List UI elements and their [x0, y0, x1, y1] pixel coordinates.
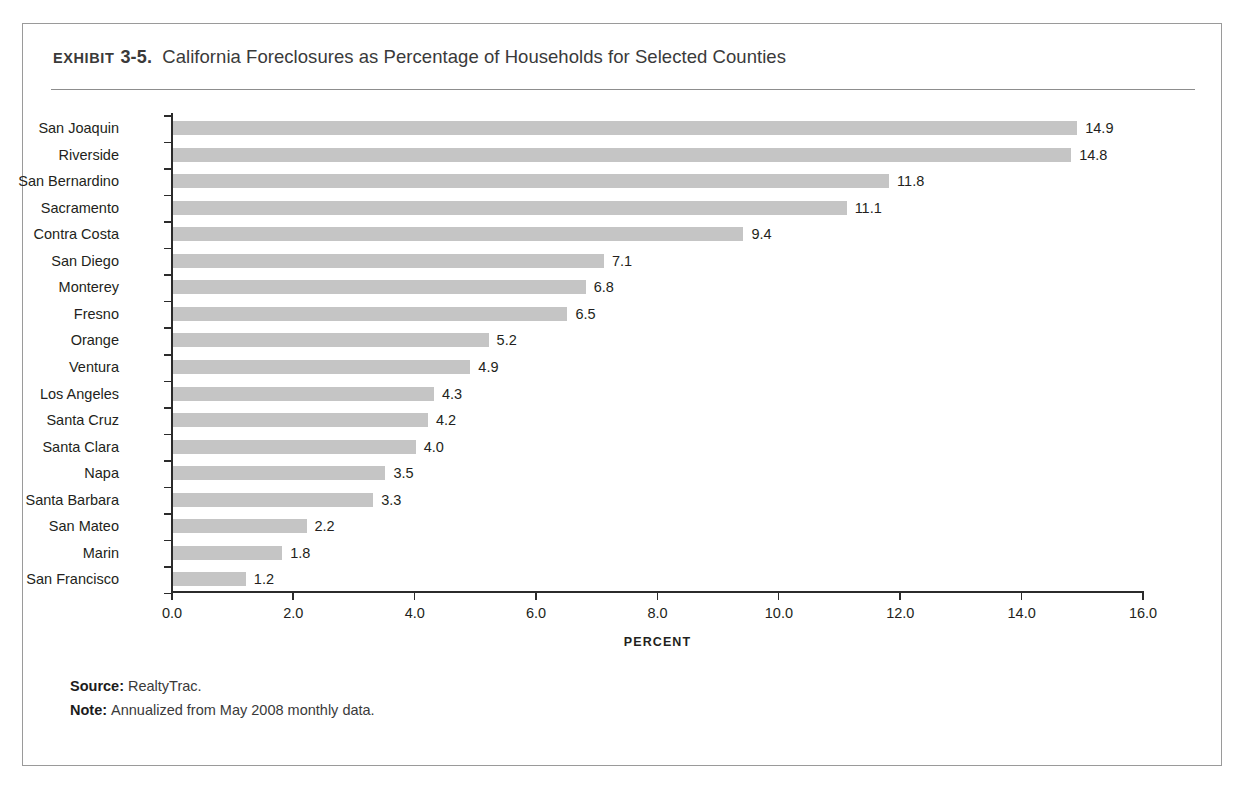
x-axis-tick [657, 593, 659, 600]
bar-row: San Diego7.1 [23, 248, 1183, 275]
y-axis-tick [164, 513, 172, 515]
y-axis-tick [164, 168, 172, 170]
bar-value-label: 5.2 [497, 327, 517, 354]
bar-row: Orange5.2 [23, 327, 1183, 354]
bar-value-label: 9.4 [751, 221, 771, 248]
bar [173, 174, 889, 188]
category-label: San Mateo [0, 513, 119, 540]
category-label: Orange [0, 327, 119, 354]
x-axis-tick [1142, 593, 1144, 600]
category-label: San Francisco [0, 566, 119, 593]
x-axis-tick-label: 12.0 [860, 605, 940, 621]
bar-value-label: 14.8 [1079, 142, 1107, 169]
x-axis-tick [171, 593, 173, 600]
bar-value-label: 14.9 [1085, 115, 1113, 142]
bar-row: Contra Costa9.4 [23, 221, 1183, 248]
source-value: RealtyTrac. [128, 678, 202, 694]
x-axis-tick [778, 593, 780, 600]
category-label: Santa Cruz [0, 407, 119, 434]
bar-value-label: 4.2 [436, 407, 456, 434]
category-label: Napa [0, 460, 119, 487]
y-axis-tick [164, 354, 172, 356]
x-axis-tick [414, 593, 416, 600]
bar-row: San Joaquin14.9 [23, 115, 1183, 142]
bar [173, 360, 470, 374]
y-axis-tick [164, 301, 172, 303]
x-axis-tick [292, 593, 294, 600]
x-axis-tick-label: 14.0 [982, 605, 1062, 621]
bar [173, 493, 373, 507]
note-value: Annualized from May 2008 monthly data. [111, 702, 375, 718]
bar [173, 466, 385, 480]
source-label: Source: [70, 678, 124, 694]
y-axis-tick [164, 274, 172, 276]
bar-row: Sacramento11.1 [23, 195, 1183, 222]
x-axis-tick-label: 10.0 [739, 605, 819, 621]
bar-row: Ventura4.9 [23, 354, 1183, 381]
category-label: San Bernardino [0, 168, 119, 195]
x-axis-tick-label: 6.0 [496, 605, 576, 621]
bar-value-label: 4.3 [442, 381, 462, 408]
x-axis-tick [1021, 593, 1023, 600]
bar-value-label: 6.5 [575, 301, 595, 328]
bar [173, 519, 307, 533]
x-axis-tick-label: 16.0 [1103, 605, 1183, 621]
x-axis-tick-label: 2.0 [253, 605, 333, 621]
y-axis-tick [164, 407, 172, 409]
bar [173, 413, 428, 427]
bar-value-label: 1.8 [290, 540, 310, 567]
x-axis-tick-label: 0.0 [132, 605, 212, 621]
category-label: Santa Barbara [0, 487, 119, 514]
bar-value-label: 6.8 [594, 274, 614, 301]
bar [173, 121, 1077, 135]
bar-value-label: 4.0 [424, 434, 444, 461]
bar-row: Los Angeles4.3 [23, 381, 1183, 408]
y-axis-tick [164, 142, 172, 144]
bar [173, 546, 282, 560]
y-axis-tick [164, 566, 172, 568]
bar [173, 440, 416, 454]
bar-value-label: 11.1 [855, 195, 882, 222]
footnotes: Source:RealtyTrac. Note:Annualized from … [70, 674, 375, 722]
category-label: Contra Costa [0, 221, 119, 248]
bar [173, 387, 434, 401]
category-label: Santa Clara [0, 434, 119, 461]
bar-row: San Bernardino11.8 [23, 168, 1183, 195]
category-label: San Joaquin [0, 115, 119, 142]
y-axis-tick [164, 487, 172, 489]
category-label: Sacramento [0, 195, 119, 222]
category-label: San Diego [0, 248, 119, 275]
bar [173, 148, 1071, 162]
category-label: Riverside [0, 142, 119, 169]
bar-row: Santa Cruz4.2 [23, 407, 1183, 434]
y-axis-tick [164, 460, 172, 462]
category-label: Fresno [0, 301, 119, 328]
bar-value-label: 11.8 [897, 168, 924, 195]
x-axis-tick-label: 8.0 [618, 605, 698, 621]
bar [173, 280, 586, 294]
bar-row: Monterey6.8 [23, 274, 1183, 301]
bar [173, 333, 489, 347]
y-axis-tick [164, 381, 172, 383]
bar-row: Santa Clara4.0 [23, 434, 1183, 461]
y-axis-tick [164, 248, 172, 250]
y-axis-tick [164, 434, 172, 436]
bar [173, 307, 567, 321]
bar-chart: San Joaquin14.9Riverside14.8San Bernardi… [23, 24, 1223, 767]
bar-row: Santa Barbara3.3 [23, 487, 1183, 514]
category-label: Monterey [0, 274, 119, 301]
exhibit-frame: EXHIBIT 3-5. California Foreclosures as … [22, 23, 1222, 766]
category-label: Ventura [0, 354, 119, 381]
bar [173, 572, 246, 586]
y-axis-tick [164, 327, 172, 329]
bar [173, 201, 847, 215]
bar [173, 227, 743, 241]
bar-row: Riverside14.8 [23, 142, 1183, 169]
bar-row: Napa3.5 [23, 460, 1183, 487]
bar [173, 254, 604, 268]
y-axis-tick [164, 115, 172, 117]
x-axis-title: PERCENT [171, 635, 1144, 649]
bar-value-label: 3.3 [381, 487, 401, 514]
bar-row: San Mateo2.2 [23, 513, 1183, 540]
bar-row: San Francisco1.2 [23, 566, 1183, 593]
